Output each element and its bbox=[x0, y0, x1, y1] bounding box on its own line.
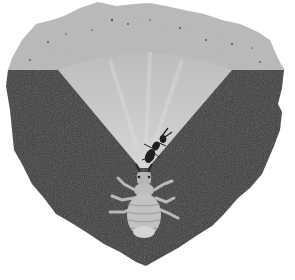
antlion-pit-illustration bbox=[0, 0, 295, 280]
